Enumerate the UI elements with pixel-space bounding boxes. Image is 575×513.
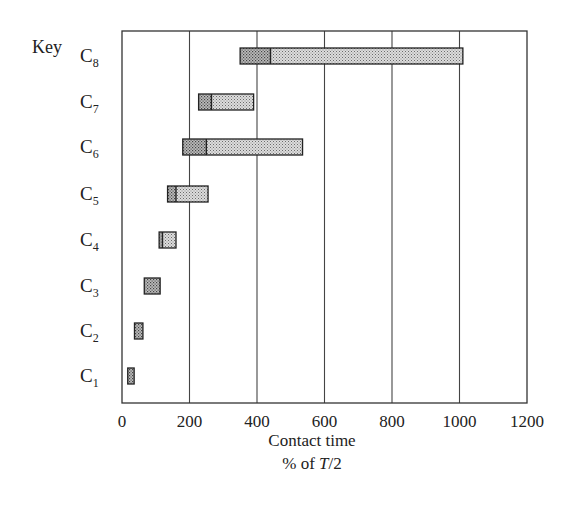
category-label-c1: C1 [80,365,99,390]
contact-time-chart: 020040060080010001200 C1C2C3C4C5C6C7C8 K… [0,0,575,513]
x-tick-label: 600 [312,412,338,431]
bar-c6 [183,139,303,155]
bar-c1 [128,368,134,384]
x-axis-tick-labels: 020040060080010001200 [118,412,544,431]
legend-key-label: Key [32,37,62,57]
category-label-c6: C6 [80,136,99,161]
category-label-c7: C7 [80,91,99,116]
x-tick-label: 200 [177,412,203,431]
y-axis-category-labels: C1C2C3C4C5C6C7C8 [80,45,99,390]
x-tick-label: 400 [244,412,270,431]
gridlines [190,31,460,403]
x-tick-label: 1000 [443,412,477,431]
bar-c8 [240,48,463,64]
x-tick-label: 0 [118,412,127,431]
category-label-c5: C5 [80,183,99,208]
x-axis-subtitle: % of T/2 [282,454,342,473]
x-axis-title: Contact time [268,431,355,450]
category-label-c8: C8 [80,45,99,70]
x-tick-label: 800 [379,412,405,431]
category-label-c3: C3 [80,275,99,300]
x-tick-label: 1200 [510,412,544,431]
bar-c7 [199,94,254,110]
category-label-c2: C2 [80,320,99,345]
bar-c4 [159,232,176,248]
bar-c5 [168,186,209,202]
range-bars [128,48,463,384]
bar-c3 [144,278,160,294]
bar-c2 [134,323,142,339]
category-label-c4: C4 [80,229,99,254]
